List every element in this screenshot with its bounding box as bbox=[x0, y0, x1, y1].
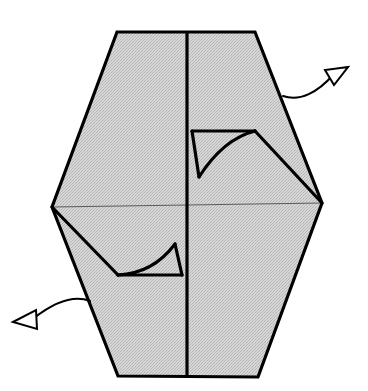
arrow-upper-right-head-icon bbox=[325, 67, 348, 85]
origami-diagram bbox=[0, 0, 368, 391]
origami-figure-container bbox=[0, 0, 368, 391]
arrow-lower-left bbox=[13, 299, 90, 329]
arrow-lower-left-shaft bbox=[34, 299, 90, 318]
arrow-upper-right bbox=[283, 67, 348, 98]
arrow-lower-left-head-icon bbox=[13, 310, 37, 329]
arrow-upper-right-shaft bbox=[283, 75, 333, 98]
